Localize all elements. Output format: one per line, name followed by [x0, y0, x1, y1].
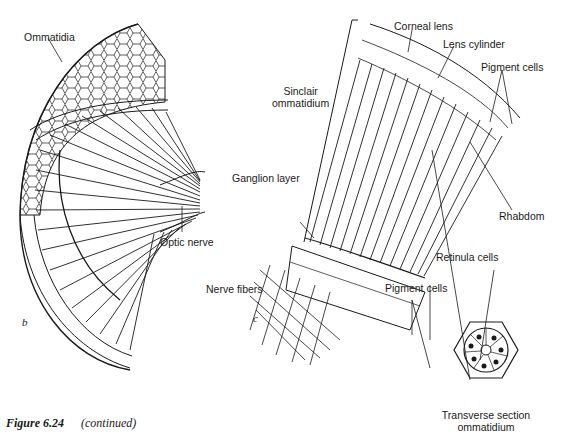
panel-letter-b: b — [22, 316, 28, 328]
label-transverse-section: Transverse section ommatidium — [436, 409, 536, 433]
transverse-section — [454, 322, 518, 378]
label-ganglion-layer: Ganglion layer — [232, 172, 300, 184]
label-retinula-cells: Retinula cells — [436, 251, 498, 263]
panel-c-ommatidia — [250, 20, 520, 380]
label-ommatidia: Ommatidia — [24, 31, 75, 43]
figure-caption: Figure 6.24 (continued) — [6, 416, 136, 431]
label-rhabdom: Rhabdom — [499, 210, 545, 222]
label-transverse-line1: Transverse section — [436, 409, 536, 421]
figure-number: Figure 6.24 — [6, 416, 64, 430]
panel-b-eye — [20, 24, 205, 370]
label-lens-cylinder: Lens cylinder — [443, 38, 505, 50]
figure-caption-text: (continued) — [81, 416, 136, 430]
label-sinclair-line2: ommatidium — [272, 97, 329, 109]
label-nerve-fibers: Nerve fibers — [206, 283, 263, 295]
label-transverse-line2: ommatidium — [436, 421, 536, 433]
panel-letter-c: c — [253, 312, 258, 324]
label-sinclair-ommatidium: Sinclair ommatidium — [272, 85, 329, 109]
label-pigment-cells-bottom: Pigment cells — [385, 282, 447, 294]
eye-diagram-artwork — [0, 0, 562, 438]
label-pigment-cells-top: Pigment cells — [481, 61, 543, 73]
label-corneal-lens: Corneal lens — [394, 20, 453, 32]
label-sinclair-line1: Sinclair — [272, 85, 329, 97]
label-optic-nerve: Optic nerve — [160, 236, 214, 248]
